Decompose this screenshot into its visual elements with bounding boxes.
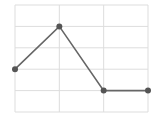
data-point-marker <box>101 88 107 94</box>
data-line <box>15 26 148 90</box>
line-chart <box>0 0 153 123</box>
data-point-marker <box>12 66 18 72</box>
data-point-marker <box>145 88 151 94</box>
data-point-marker <box>56 23 62 29</box>
